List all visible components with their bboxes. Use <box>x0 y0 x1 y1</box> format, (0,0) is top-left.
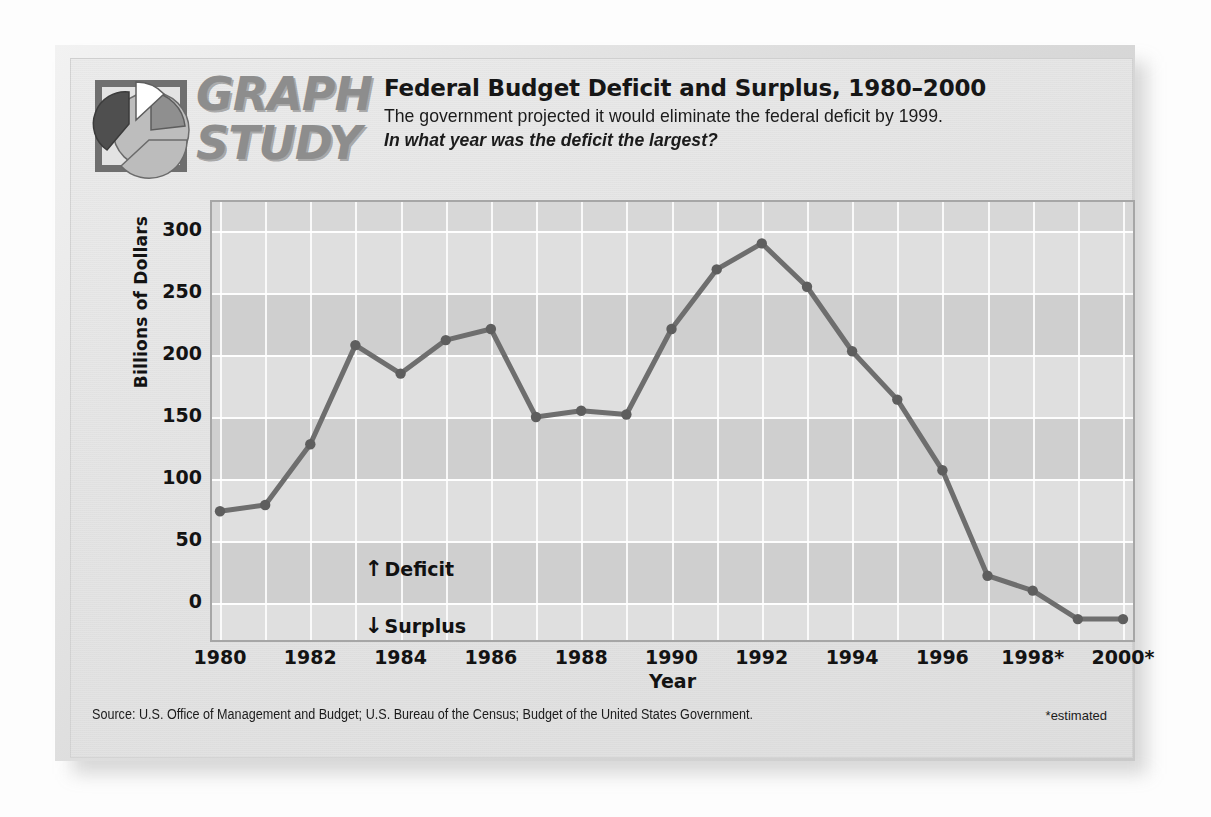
x-tick-label: 1984 <box>374 646 427 668</box>
data-point-marker <box>712 264 722 274</box>
x-tick-label: 1988 <box>555 646 608 668</box>
deficit-annotation: ↑Deficit <box>364 556 454 581</box>
page-title: Federal Budget Deficit and Surplus, 1980… <box>384 74 1119 102</box>
deficit-label: Deficit <box>384 558 454 580</box>
y-tick-label: 200 <box>144 342 202 364</box>
y-tick-label: 50 <box>144 528 202 550</box>
card-header: GRAPH STUDY Federal Budget Deficit and S… <box>84 68 1123 193</box>
data-point-marker <box>441 335 451 345</box>
data-point-marker <box>621 409 631 419</box>
plot-area: ↑Deficit ↓Surplus <box>210 200 1135 642</box>
title-subtitle: The government projected it would elimin… <box>384 104 1068 128</box>
data-point-marker <box>892 394 902 404</box>
data-point-marker <box>215 506 225 516</box>
pie-chart-icon <box>89 72 201 184</box>
x-tick-label: 1982 <box>284 646 337 668</box>
y-tick-label: 250 <box>144 280 202 302</box>
y-tick-label: 0 <box>144 590 202 612</box>
data-point-marker <box>260 500 270 510</box>
graph-study-card: GRAPH STUDY Federal Budget Deficit and S… <box>70 58 1133 758</box>
x-tick-label: 1994 <box>826 646 879 668</box>
data-point-marker <box>305 439 315 449</box>
data-point-marker <box>486 324 496 334</box>
data-point-marker <box>1073 614 1083 624</box>
x-tick-label: 1998* <box>1001 646 1064 668</box>
source-note: Source: U.S. Office of Management and Bu… <box>92 706 753 722</box>
y-tick-label: 100 <box>144 466 202 488</box>
x-axis-title: Year <box>210 670 1135 692</box>
y-tick-label: 150 <box>144 404 202 426</box>
data-series-line <box>212 202 1133 640</box>
x-tick-label: 1980 <box>194 646 247 668</box>
brand-line-2: STUDY <box>196 118 386 168</box>
brand-wordmark: GRAPH STUDY <box>196 70 386 188</box>
data-point-marker <box>576 406 586 416</box>
surplus-annotation: ↓Surplus <box>364 613 466 638</box>
brand-line-1: GRAPH <box>196 70 386 118</box>
up-arrow-icon: ↑ <box>364 556 384 581</box>
estimated-note: *estimated <box>1046 708 1107 723</box>
pie-chart-glyph <box>89 72 201 184</box>
page-root: GRAPH STUDY Federal Budget Deficit and S… <box>0 0 1211 817</box>
x-tick-label: 2000* <box>1092 646 1155 668</box>
data-point-marker <box>757 238 767 248</box>
card-footer: Source: U.S. Office of Management and Bu… <box>92 706 1111 736</box>
x-tick-label: 1986 <box>464 646 517 668</box>
x-tick-label: 1990 <box>645 646 698 668</box>
y-tick-label: 300 <box>144 218 202 240</box>
surplus-label: Surplus <box>384 615 466 637</box>
data-point-marker <box>937 465 947 475</box>
series-polyline <box>220 243 1123 619</box>
title-question: In what year was the deficit the largest… <box>384 128 1068 152</box>
x-tick-label: 1992 <box>735 646 788 668</box>
data-point-marker <box>395 368 405 378</box>
data-point-marker <box>847 346 857 356</box>
x-tick-label: 1996 <box>916 646 969 668</box>
data-point-marker <box>802 282 812 292</box>
data-point-marker <box>666 324 676 334</box>
title-block: Federal Budget Deficit and Surplus, 1980… <box>384 74 1119 152</box>
data-point-marker <box>982 571 992 581</box>
data-point-marker <box>531 412 541 422</box>
data-point-marker <box>1118 614 1128 624</box>
data-point-marker <box>1028 585 1038 595</box>
data-point-marker <box>350 340 360 350</box>
down-arrow-icon: ↓ <box>364 613 384 638</box>
y-axis-ticks: 300250200150100500 <box>142 200 202 695</box>
chart-region: Billions of Dollars 300250200150100500 ↑… <box>92 200 1114 695</box>
